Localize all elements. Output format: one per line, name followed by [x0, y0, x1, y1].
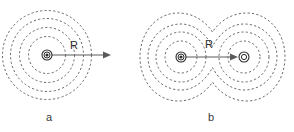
panel-caption-a: a: [46, 111, 53, 123]
figure-canvas: R a: [0, 0, 294, 132]
panel-a: R a: [3, 11, 112, 124]
panel-caption-b: b: [208, 111, 214, 123]
radius-label-a: R: [70, 39, 78, 51]
radius-vector-arrowhead: [103, 52, 111, 59]
nucleus-dot: [179, 55, 182, 58]
panel-b-radius-vector: [186, 54, 238, 61]
nucleus-b-right: [239, 52, 249, 62]
radius-label-b: R: [205, 38, 213, 50]
figure-root: R a: [0, 0, 294, 132]
nucleus-dot: [45, 53, 48, 56]
nucleus-b-left: [176, 52, 186, 62]
nucleus-a: [42, 50, 52, 60]
panel-b: R b: [140, 13, 285, 123]
nucleus-outer-ring: [239, 52, 249, 62]
panel-a-radius-vector: [52, 52, 111, 59]
radius-vector-arrowhead: [230, 54, 238, 61]
